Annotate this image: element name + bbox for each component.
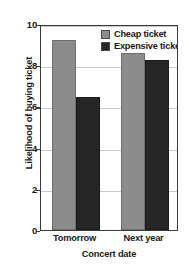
bar <box>145 60 169 230</box>
bar <box>76 97 100 230</box>
legend-swatch-icon <box>101 42 110 51</box>
y-tick-label: 8 <box>20 61 37 71</box>
y-axis-tick-labels: 0246810 <box>20 25 37 231</box>
y-tick-label: 0 <box>20 226 37 236</box>
x-axis-tick-labels: TomorrowNext year <box>40 234 178 248</box>
y-tickmark <box>36 66 40 67</box>
y-tick-label: 4 <box>20 144 37 154</box>
y-tick-label: 10 <box>20 20 37 30</box>
y-tickmark <box>36 231 40 232</box>
y-tickmark <box>36 190 40 191</box>
legend: Cheap ticket Expensive ticket <box>101 30 178 51</box>
x-axis-title: Concert date <box>40 249 178 259</box>
x-tick-label: Tomorrow <box>53 234 96 243</box>
legend-label: Cheap ticket <box>114 30 166 39</box>
legend-swatch-icon <box>101 30 110 39</box>
bar <box>52 40 76 230</box>
y-tick-label: 6 <box>20 103 37 113</box>
x-tick-label: Next year <box>123 234 163 243</box>
legend-item-expensive-ticket: Expensive ticket <box>101 42 178 51</box>
y-tickmark <box>36 149 40 150</box>
legend-label: Expensive ticket <box>114 42 178 51</box>
y-tick-label: 2 <box>20 185 37 195</box>
y-tickmark <box>36 25 40 26</box>
bar <box>121 53 145 230</box>
bar-chart: Likelihood of buying ticket 0246810 Chea… <box>0 0 189 272</box>
y-tickmark <box>36 107 40 108</box>
bars-layer <box>41 26 177 230</box>
plot-area: Cheap ticket Expensive ticket <box>40 25 178 231</box>
legend-item-cheap-ticket: Cheap ticket <box>101 30 178 39</box>
